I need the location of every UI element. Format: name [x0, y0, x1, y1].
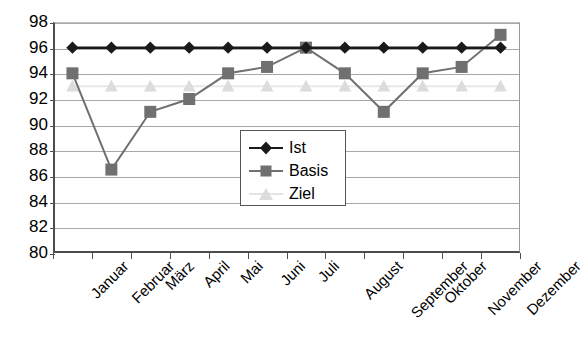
gridline — [55, 100, 519, 101]
y-axis-tick-label: 82 — [29, 217, 48, 237]
legend-marker-square-icon — [247, 162, 285, 180]
x-axis-label-group: JanuarFebruarMärzAprilMaiJuniJuliAugustS… — [0, 253, 547, 364]
legend-item-basis[interactable]: Basis — [241, 159, 345, 182]
gridline — [55, 23, 519, 24]
legend-item-ist[interactable]: Ist — [241, 136, 345, 159]
gridline — [55, 49, 519, 50]
y-axis-tick-label: 94 — [29, 63, 48, 83]
y-axis-tick — [50, 177, 55, 178]
y-axis-tick-label: 90 — [29, 115, 48, 135]
legend-item-ziel[interactable]: Ziel — [241, 182, 345, 205]
y-axis-tick-label: 86 — [29, 166, 48, 186]
x-axis-tick-label: April — [200, 257, 233, 290]
x-axis-tick-label: Mai — [237, 257, 266, 286]
legend-label-ist: Ist — [285, 140, 306, 156]
x-axis-tick-label: August — [360, 257, 405, 302]
gridline — [55, 74, 519, 75]
y-axis-tick — [50, 203, 55, 204]
x-axis-tick-label: Juni — [277, 257, 308, 288]
chart-legend: Ist Basis Ziel — [240, 130, 346, 206]
y-axis-tick-label: 88 — [29, 140, 48, 160]
y-axis-tick — [50, 74, 55, 75]
x-axis-tick-label: Juli — [314, 257, 342, 285]
y-axis-tick — [50, 23, 55, 24]
y-axis-tick-label: 84 — [29, 192, 48, 212]
gridline — [55, 228, 519, 229]
gridline — [55, 126, 519, 127]
y-axis-tick-label: 92 — [29, 89, 48, 109]
y-axis-tick — [50, 126, 55, 127]
y-axis-tick — [50, 100, 55, 101]
legend-label-basis: Basis — [285, 163, 328, 179]
y-axis-tick — [50, 151, 55, 152]
y-axis-tick — [50, 228, 55, 229]
legend-marker-triangle-icon — [247, 185, 285, 203]
legend-label-ziel: Ziel — [285, 186, 315, 202]
y-axis-tick-label: 98 — [29, 12, 48, 32]
y-axis-label-group: 98969492908886848280 — [0, 22, 48, 253]
y-axis-tick-label: 96 — [29, 38, 48, 58]
y-axis-tick — [50, 49, 55, 50]
legend-marker-diamond-icon — [247, 139, 285, 157]
x-axis-tick-label: Januar — [88, 257, 132, 301]
